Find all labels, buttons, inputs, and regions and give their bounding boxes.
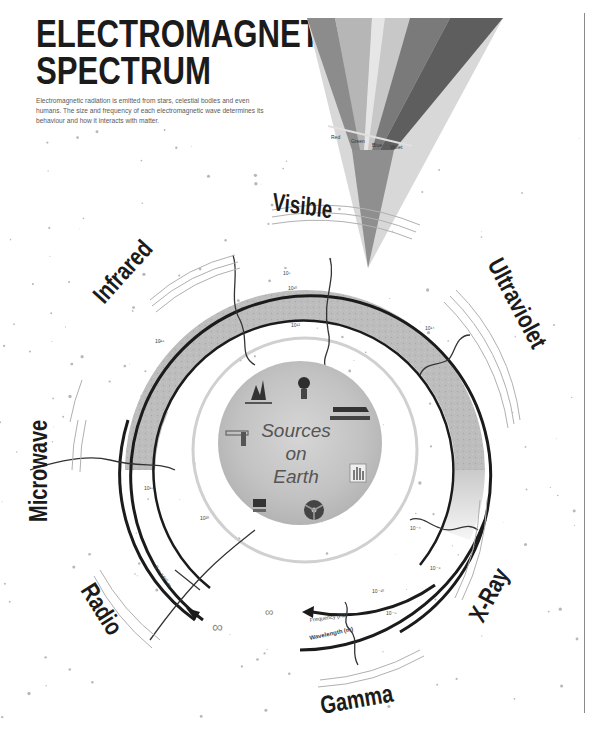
x-ray-hand-icon: [350, 464, 366, 482]
speckle: [254, 355, 256, 357]
speckle: [62, 416, 64, 418]
speckle: [200, 715, 203, 718]
speckle: [69, 668, 72, 671]
center-label-line1: Sources: [261, 420, 331, 441]
speckle: [49, 256, 50, 257]
speckle: [341, 336, 343, 338]
tick-label: 10⁻⁴: [410, 525, 421, 531]
speckle: [2, 501, 3, 502]
speckle: [137, 575, 138, 576]
radio-wavelength-label: 3 × 10¹⁰ m: [153, 564, 173, 589]
speckle: [415, 513, 417, 515]
speckle: [282, 168, 284, 170]
speckle: [109, 380, 111, 382]
prism-label-blue: Blue: [372, 142, 382, 148]
band-label-xray: X-Ray: [463, 563, 514, 626]
speckle: [48, 227, 50, 229]
infinity-symbol-frequency: ∞: [265, 605, 274, 619]
speckle: [134, 573, 136, 575]
speckle: [557, 495, 559, 497]
speckle: [455, 678, 457, 680]
speckle: [141, 202, 143, 204]
speckle: [224, 239, 227, 242]
speckle: [263, 652, 265, 654]
speckle: [144, 370, 146, 372]
tick-label: 10¹²: [291, 322, 300, 328]
speckle: [395, 554, 396, 555]
band-label-gamma: Gamma: [318, 679, 395, 719]
speckle: [382, 651, 383, 652]
visible-light-prism: Red Green Blue Violet: [307, 18, 503, 268]
speckle: [421, 191, 423, 193]
speckle: [4, 583, 6, 585]
speckle: [481, 236, 483, 238]
speckle: [147, 498, 149, 500]
speckle: [406, 589, 407, 590]
speckle: [353, 360, 354, 361]
speckle: [383, 424, 384, 425]
sources-on-earth: Sources on Earth: [218, 361, 382, 525]
band-label-infrared: Infrared: [88, 235, 158, 309]
speckle: [199, 268, 202, 271]
speckle: [317, 328, 318, 329]
speckle: [51, 341, 52, 342]
speckle: [136, 533, 137, 534]
speckle: [96, 130, 99, 133]
tick-label: 10²⁰: [200, 515, 209, 521]
speckle: [458, 554, 460, 556]
speckle: [76, 136, 79, 139]
speckle: [53, 426, 54, 427]
speckle: [138, 562, 140, 564]
speckle: [264, 709, 267, 712]
tick-label: 10¹⁶: [155, 338, 164, 344]
tick-label: 10¹⁰: [288, 285, 297, 291]
speckle: [88, 553, 91, 556]
poster: ELECTROMAGNETIC SPECTRUM Electromagnetic…: [0, 0, 610, 735]
center-label-line3: Earth: [273, 466, 318, 487]
center-label-line2: on: [285, 443, 306, 464]
speckle: [178, 275, 180, 277]
speckle: [155, 588, 158, 591]
speckle: [83, 217, 85, 219]
speckle: [268, 279, 271, 282]
infinity-symbol-wavelength: ∞: [212, 618, 223, 635]
speckle: [129, 364, 130, 365]
speckle: [438, 169, 440, 171]
speckle: [179, 499, 180, 500]
speckle: [32, 283, 34, 285]
tick-label: 10¹⁴: [425, 325, 434, 331]
speckle: [436, 684, 438, 686]
speckle: [576, 638, 579, 641]
speckle: [65, 326, 66, 327]
speckle: [434, 598, 436, 600]
speckle: [267, 223, 269, 225]
speckle: [9, 601, 11, 603]
speckle: [348, 370, 351, 373]
speckle: [267, 649, 268, 650]
spectrum-diagram: Red Green Blue Violet: [0, 0, 610, 735]
speckle: [132, 306, 135, 309]
speckle: [514, 336, 515, 337]
speckle: [45, 685, 46, 686]
speckle: [427, 331, 430, 334]
speckle: [571, 397, 572, 398]
microwave-oven-icon: [253, 499, 266, 512]
speckle: [68, 395, 71, 398]
speckle: [3, 345, 5, 347]
speckle: [432, 513, 434, 515]
band-label-microwave: Microwave: [25, 420, 53, 522]
prism-label-red: Red: [331, 134, 340, 140]
radiation-icon: [304, 500, 324, 520]
speckle: [447, 340, 449, 342]
prism-label-green: Green: [351, 138, 365, 144]
speckle: [284, 267, 286, 269]
speckle: [553, 324, 555, 326]
speckle: [452, 545, 453, 546]
speckle: [559, 608, 562, 611]
speckle: [521, 192, 523, 194]
speckle: [164, 129, 166, 131]
tick-label: 10⁻⁸: [386, 610, 397, 616]
speckle: [50, 312, 52, 314]
speckle: [254, 174, 257, 177]
speckle: [68, 281, 70, 283]
